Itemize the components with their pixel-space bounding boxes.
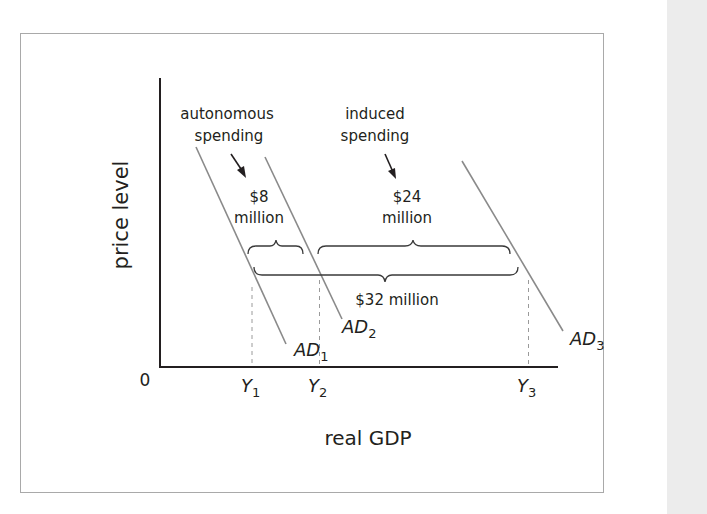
twentyfour-million-line2: million	[382, 209, 432, 227]
y-axis-label: price level	[109, 161, 133, 270]
twentyfour-million-line1: $24	[393, 188, 422, 206]
ad3-label: AD3	[569, 328, 604, 353]
induced-label-line1: induced	[345, 105, 405, 123]
y1-tick-label: Y1	[241, 375, 260, 400]
induced-arrow-icon	[385, 154, 396, 179]
thirtytwo-million-label: $32 million	[355, 291, 438, 309]
y2-tick-label: Y2	[308, 375, 327, 400]
induced-label-line2: spending	[341, 127, 410, 145]
ad-multiplier-diagram: price level real GDP 0 autonomous spendi…	[0, 0, 707, 514]
autonomous-label-line2: spending	[195, 127, 264, 145]
eight-million-line1: $8	[249, 188, 268, 206]
brace-24-million	[318, 240, 510, 254]
ad2-curve	[265, 157, 342, 319]
brace-32-million	[254, 267, 518, 282]
x-axis-label: real GDP	[324, 426, 411, 450]
ad2-label: AD2	[341, 316, 376, 341]
brace-8-million	[248, 240, 303, 254]
autonomous-arrow-icon	[231, 154, 246, 178]
autonomous-label-line1: autonomous	[180, 105, 274, 123]
origin-label: 0	[140, 370, 151, 390]
ad1-label: AD1	[293, 339, 328, 364]
eight-million-line2: million	[234, 209, 284, 227]
y3-tick-label: Y3	[517, 375, 536, 400]
